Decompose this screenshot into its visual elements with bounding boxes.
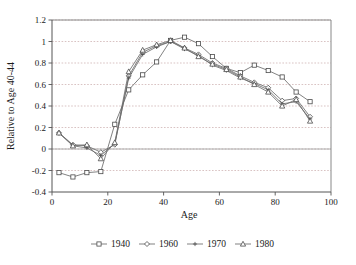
y-tick-label: 0 bbox=[42, 144, 47, 154]
y-axis-ticks: -0.4-0.200.20.40.60.811.2 bbox=[32, 15, 52, 197]
data-point-1940 bbox=[71, 175, 75, 179]
data-point-1940 bbox=[155, 60, 159, 64]
series-line-1970 bbox=[59, 42, 310, 156]
data-point-1940 bbox=[308, 100, 312, 104]
relative-to-age-line-chart: 020406080100 -0.4-0.200.20.40.60.811.2 A… bbox=[0, 0, 356, 265]
data-point-1940 bbox=[280, 75, 284, 79]
x-tick-label: 40 bbox=[159, 197, 169, 207]
data-point-1940 bbox=[141, 73, 145, 77]
x-tick-label: 0 bbox=[50, 197, 55, 207]
legend-item-1970[interactable]: 1970 bbox=[187, 239, 226, 249]
chart-legend: 1940196019701980 bbox=[91, 239, 274, 249]
legend-label-1960: 1960 bbox=[159, 239, 178, 249]
y-tick-label: 0.4 bbox=[35, 101, 47, 111]
x-tick-label: 80 bbox=[271, 197, 281, 207]
series-1980 bbox=[56, 38, 312, 161]
y-tick-label: -0.4 bbox=[32, 187, 47, 197]
legend-marker-1940 bbox=[97, 242, 101, 246]
x-tick-label: 20 bbox=[103, 197, 113, 207]
legend-label-1980: 1980 bbox=[255, 239, 274, 249]
series-line-1960 bbox=[59, 42, 310, 153]
series-1970 bbox=[57, 39, 312, 157]
series-1940 bbox=[57, 35, 312, 179]
data-point-1940 bbox=[196, 42, 200, 46]
legend-label-1940: 1940 bbox=[111, 239, 130, 249]
y-tick-label: 0.2 bbox=[35, 123, 46, 133]
legend-label-1970: 1970 bbox=[207, 239, 226, 249]
series-line-1980 bbox=[59, 40, 310, 158]
data-series-group bbox=[56, 35, 312, 179]
series-line-1940 bbox=[59, 37, 310, 177]
legend-item-1960[interactable]: 1960 bbox=[139, 239, 178, 249]
data-point-1940 bbox=[182, 35, 186, 39]
legend-marker-1970 bbox=[193, 242, 197, 246]
x-tick-label: 60 bbox=[215, 197, 225, 207]
data-point-1940 bbox=[210, 54, 214, 58]
data-point-1980 bbox=[84, 142, 89, 147]
data-point-1980 bbox=[112, 140, 117, 145]
data-point-1940 bbox=[57, 171, 61, 175]
data-point-1940 bbox=[85, 171, 89, 175]
x-axis-title: Age bbox=[181, 209, 198, 220]
gridlines bbox=[52, 20, 331, 171]
legend-item-1980[interactable]: 1980 bbox=[235, 239, 274, 249]
data-point-1940 bbox=[294, 90, 298, 94]
x-tick-label: 100 bbox=[324, 197, 338, 207]
data-point-1940 bbox=[113, 122, 117, 126]
data-point-1940 bbox=[127, 88, 131, 92]
data-point-1940 bbox=[99, 169, 103, 173]
y-axis-title: Relative to Age 40-44 bbox=[5, 62, 16, 150]
data-point-1940 bbox=[266, 68, 270, 72]
series-1960 bbox=[56, 39, 312, 155]
y-tick-label: -0.2 bbox=[32, 166, 46, 176]
data-point-1980 bbox=[126, 69, 131, 74]
legend-item-1940[interactable]: 1940 bbox=[91, 239, 130, 249]
legend-marker-1960 bbox=[145, 242, 150, 247]
data-point-1940 bbox=[252, 63, 256, 67]
x-axis-ticks: 020406080100 bbox=[50, 192, 339, 207]
y-tick-label: 1 bbox=[42, 37, 47, 47]
y-tick-label: 0.6 bbox=[35, 80, 47, 90]
chart-container: 020406080100 -0.4-0.200.20.40.60.811.2 A… bbox=[0, 0, 356, 265]
y-tick-label: 1.2 bbox=[35, 15, 46, 25]
y-tick-label: 0.8 bbox=[35, 58, 47, 68]
